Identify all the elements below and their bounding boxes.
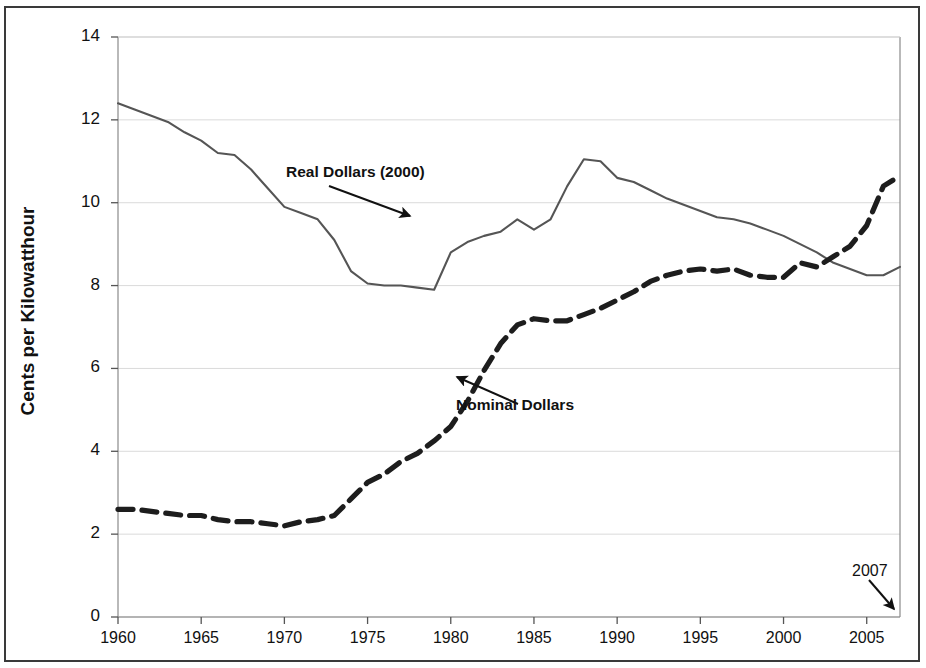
data-lines (118, 103, 900, 526)
x-tick-marks (118, 617, 867, 624)
y-tick-label-14: 14 (60, 26, 100, 46)
y-tick-label-4: 4 (60, 440, 100, 460)
x-tick-label-2000: 2000 (749, 629, 819, 647)
annotation-year-2007: 2007 (852, 562, 888, 580)
y-tick-label-0: 0 (60, 606, 100, 626)
x-tick-label-1985: 1985 (499, 629, 569, 647)
y-tick-label-6: 6 (60, 357, 100, 377)
y-tick-label-12: 12 (60, 109, 100, 129)
annotation-nominal-dollars: Nominal Dollars (456, 396, 574, 414)
arrow-year-2007 (869, 580, 894, 609)
gridlines (118, 37, 900, 617)
x-tick-label-2005: 2005 (832, 629, 902, 647)
series-real-dollars-2000 (118, 103, 900, 289)
y-tick-label-10: 10 (60, 192, 100, 212)
figure-page: Cents per Kilowatthour 02468101214 19601… (0, 0, 926, 668)
x-tick-label-1975: 1975 (333, 629, 403, 647)
plot-border (118, 37, 900, 617)
series-nominal-dollars (118, 176, 900, 526)
annotation-real-dollars: Real Dollars (2000) (286, 163, 425, 181)
arrow-real-dollars (329, 186, 410, 216)
x-tick-label-1990: 1990 (582, 629, 652, 647)
x-tick-label-1995: 1995 (665, 629, 735, 647)
y-tick-marks (111, 37, 118, 617)
x-tick-label-1970: 1970 (249, 629, 319, 647)
y-tick-label-8: 8 (60, 275, 100, 295)
line-chart (0, 0, 926, 668)
x-tick-label-1965: 1965 (166, 629, 236, 647)
x-tick-label-1980: 1980 (416, 629, 486, 647)
y-tick-label-2: 2 (60, 523, 100, 543)
x-tick-label-1960: 1960 (83, 629, 153, 647)
